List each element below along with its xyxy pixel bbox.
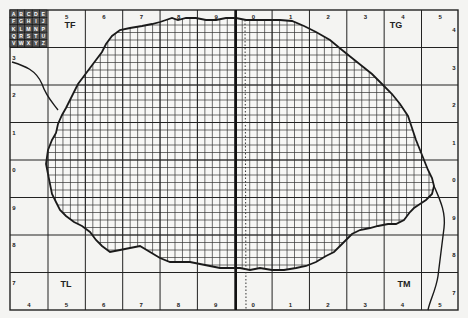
key-grid-letter: X [27,40,31,46]
right-axis-label: 8 [452,252,456,258]
top-axis-label: 5 [439,14,443,20]
left-axis-label: 9 [12,205,16,211]
key-grid-letter: B [19,11,23,17]
key-grid-letter: Q [12,33,16,39]
bottom-axis-label: 4 [401,302,405,308]
bottom-axis-label: 8 [177,302,181,308]
right-axis-label: 7 [452,290,456,296]
key-grid-letter: N [34,26,38,32]
east-coastline [428,186,444,310]
top-axis-label: 6 [102,14,106,20]
key-grid-letter: U [41,33,45,39]
bottom-axis-label: 0 [251,302,255,308]
grid-square-label-tf: TF [65,20,76,30]
key-grid-letter: A [12,11,16,17]
right-axis-label: 3 [452,65,456,71]
key-grid-letter: E [42,11,46,17]
key-grid-letter: Y [34,40,38,46]
left-axis-label: 1 [12,130,16,136]
key-grid-letter: S [27,33,31,39]
river-wash [12,62,58,110]
bottom-axis-label: 5 [65,302,69,308]
grid-square-label-tg: TG [390,20,403,30]
key-grid: ABCDEFGHIJKLMNPQRSTUVWXYZ [10,10,47,47]
left-axis-label: 2 [12,92,16,98]
key-grid-letter: C [27,11,31,17]
key-grid-letter: K [12,26,16,32]
bottom-axis-label: 5 [438,302,442,308]
left-axis-label: 3 [12,55,16,61]
bottom-axis-label: 4 [27,302,31,308]
key-grid-letter: H [27,18,31,24]
right-axis-label: 9 [452,215,456,221]
top-axis-label: 7 [140,14,144,20]
key-grid-letter: M [26,26,30,32]
left-axis-label: 7 [12,280,16,286]
grid-square-label-tl: TL [61,279,72,289]
top-axis-label: 1 [289,14,293,20]
key-grid-letter: V [12,40,16,46]
grid-square-label-tm: TM [398,279,411,289]
right-axis-label: 1 [452,140,456,146]
grid-map: ABCDEFGHIJKLMNPQRSTUVWXYZ 56789012345456… [0,0,468,318]
key-grid-letter: D [34,11,38,17]
bottom-axis-label: 1 [289,302,293,308]
bottom-axis-label: 9 [214,302,218,308]
bottom-axis-label: 3 [363,302,367,308]
top-axis-label: 2 [326,14,330,20]
left-axis-label: 0 [12,167,16,173]
key-grid-letter: R [19,33,23,39]
right-axis-label: 4 [452,27,456,33]
top-axis-label: 3 [364,14,368,20]
bottom-axis-label: 2 [326,302,330,308]
right-axis-label: 0 [452,177,456,183]
key-grid-letter: F [12,18,15,24]
left-axis-label: 8 [12,242,16,248]
key-grid-letter: W [19,40,24,46]
key-grid-letter: J [42,18,45,24]
key-grid-letter: G [19,18,23,24]
bottom-axis-label: 6 [102,302,106,308]
key-grid-letter: P [42,26,46,32]
bottom-axis-label: 7 [139,302,143,308]
right-axis-label: 2 [452,102,456,108]
